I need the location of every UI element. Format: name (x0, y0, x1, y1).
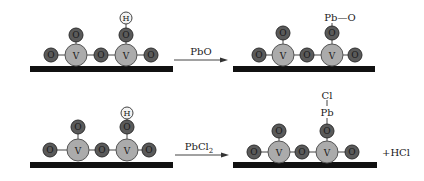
svg-text:O: O (348, 147, 355, 157)
svg-text:O: O (123, 122, 130, 132)
oxygen-atom: O (345, 145, 359, 159)
svg-text:O: O (98, 145, 105, 155)
oxygen-atom: O (272, 124, 286, 138)
reagent-label: PbO (190, 46, 211, 57)
oxygen-atom: O (94, 48, 108, 62)
oxygen-atom: O (320, 124, 334, 138)
svg-text:O: O (250, 147, 257, 157)
reaction-arrow: PbO (174, 46, 228, 63)
svg-text:O: O (255, 50, 262, 60)
svg-text:O: O (298, 147, 305, 157)
catalyst-support (30, 66, 173, 72)
svg-text:V: V (74, 146, 82, 156)
svg-text:V: V (123, 146, 131, 156)
oxygen-atom: O (71, 120, 85, 134)
svg-text:V: V (323, 148, 331, 158)
svg-text:O: O (279, 28, 286, 38)
oxygen-atom: O (120, 120, 134, 134)
arrowhead-icon (221, 153, 229, 158)
row2-product: O V O V O O O Pb Cl +HCl (233, 90, 410, 168)
svg-text:O: O (147, 50, 154, 60)
vanadium-atom: V (67, 139, 89, 161)
oxygen-atom: O (252, 48, 266, 62)
row1-reactant: O V O V O O O H (30, 12, 173, 72)
pb-adsorption-diagram: O V O V O O O H PbO O V O V O O O Pb—O O (0, 0, 424, 181)
oxygen-atom: O (95, 143, 109, 157)
oxygen-atom: O (300, 48, 314, 62)
svg-text:V: V (279, 51, 287, 61)
row2-reactant: O V O V O O O H (30, 107, 173, 168)
catalyst-support (30, 162, 173, 168)
oxygen-atom: O (142, 143, 156, 157)
svg-text:O: O (72, 30, 79, 40)
svg-text:O: O (122, 30, 129, 40)
vanadium-atom: V (321, 44, 343, 66)
svg-text:O: O (46, 145, 53, 155)
reaction-arrow: PbCl2 (175, 141, 229, 158)
oxygen-atom: O (276, 26, 290, 40)
vanadium-atom: V (115, 44, 137, 66)
oxygen-atom: O (295, 145, 309, 159)
vanadium-atom: V (268, 141, 290, 163)
svg-text:O: O (275, 126, 282, 136)
row1-product: O V O V O O O Pb—O (233, 10, 375, 72)
vanadium-atom: V (316, 141, 338, 163)
svg-text:O: O (97, 50, 104, 60)
oxygen-atom: O (69, 28, 83, 42)
svg-text:V: V (328, 51, 336, 61)
reagent-label: PbCl2 (185, 141, 213, 155)
hydrogen-atom: H (121, 107, 133, 119)
svg-text:O: O (328, 28, 335, 38)
svg-text:V: V (122, 51, 130, 61)
svg-text:H: H (123, 14, 130, 23)
vanadium-atom: V (116, 139, 138, 161)
oxygen-atom: O (119, 28, 133, 42)
svg-text:O: O (323, 126, 330, 136)
oxygen-atom: O (247, 145, 261, 159)
oxygen-atom: O (144, 48, 158, 62)
chlorine-label: Cl (322, 90, 333, 101)
svg-text:O: O (145, 145, 152, 155)
svg-text:H: H (124, 109, 131, 118)
svg-text:O: O (303, 50, 310, 60)
hydrogen-atom: H (120, 12, 132, 24)
svg-text:O: O (351, 50, 358, 60)
vanadium-atom: V (272, 44, 294, 66)
arrowhead-icon (220, 58, 228, 63)
oxygen-atom: O (43, 143, 57, 157)
lead-label: Pb (320, 107, 333, 118)
catalyst-support (233, 66, 375, 72)
svg-text:V: V (72, 51, 80, 61)
svg-text:V: V (275, 148, 283, 158)
byproduct-label: +HCl (382, 147, 410, 158)
catalyst-support (233, 162, 377, 168)
product-pb-o-label: Pb—O (324, 12, 355, 23)
svg-text:O: O (74, 122, 81, 132)
oxygen-atom: O (325, 26, 339, 40)
oxygen-atom: O (44, 48, 58, 62)
svg-text:O: O (47, 50, 54, 60)
oxygen-atom: O (348, 48, 362, 62)
vanadium-atom: V (65, 44, 87, 66)
